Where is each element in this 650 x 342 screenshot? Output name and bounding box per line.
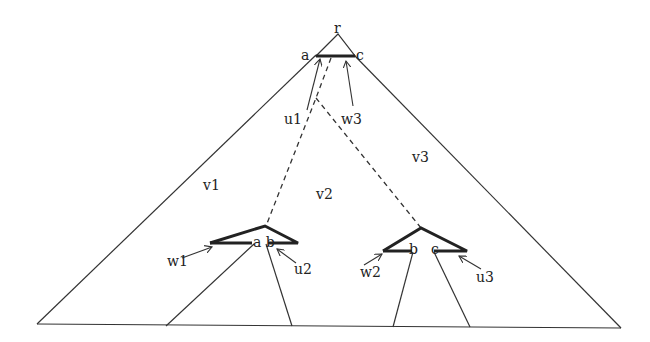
label-root-r: r [334,20,341,36]
left-subtree-triangle [166,226,298,326]
label-u2: u2 [294,261,312,277]
label-top-a: a [301,47,309,63]
label-top-c: c [356,47,364,63]
label-right-b: b [409,241,418,257]
label-w1: w1 [167,253,188,269]
label-v2: v2 [315,186,333,202]
tree-diagram: r a c u1 w3 v1 v2 v3 a b w1 u2 b c w2 u3 [0,0,650,342]
dashed-paths [266,58,421,228]
label-w2: w2 [360,264,381,280]
label-u1: u1 [284,111,302,127]
label-u3: u3 [476,269,494,285]
arrow-w3 [346,61,353,106]
label-v1: v1 [202,177,220,193]
arrow-u1 [307,59,320,110]
diagram-canvas: r a c u1 w3 v1 v2 v3 a b w1 u2 b c w2 u3 [0,0,650,342]
top-triangle [316,34,355,56]
label-w3: w3 [341,111,362,127]
label-right-c: c [431,241,439,257]
arrow-u3 [459,256,481,269]
right-subtree-triangle [383,228,470,327]
label-v3: v3 [411,149,429,165]
label-left-ab: a b [253,234,275,250]
